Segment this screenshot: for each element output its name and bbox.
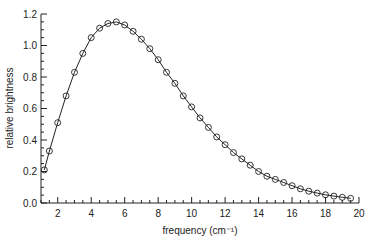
brightness-frequency-chart: 0.00.20.40.60.81.01.2 2468101214161820 f… [0,0,371,241]
x-tick-label: 8 [155,208,161,219]
x-tick-label: 20 [353,208,365,219]
x-tick-label: 12 [220,208,232,219]
x-axis-title: frequency (cm⁻¹) [162,225,237,236]
y-tick-label: 0.8 [23,72,37,83]
y-tick-label: 1.2 [23,9,37,20]
data-markers [41,19,353,201]
y-axis: 0.00.20.40.60.81.01.2 [23,9,47,209]
x-tick-label: 10 [186,208,198,219]
x-tick-label: 18 [320,208,332,219]
x-tick-label: 16 [286,208,298,219]
y-tick-label: 0.2 [23,166,37,177]
fitted-curve [44,22,350,198]
y-axis-title: relative brightness [4,67,15,148]
y-tick-label: 0.4 [23,135,37,146]
y-tick-label: 1.0 [23,40,37,51]
y-tick-label: 0.0 [23,198,37,209]
y-tick-label: 0.6 [23,103,37,114]
x-tick-label: 14 [253,208,265,219]
x-tick-label: 4 [88,208,94,219]
x-tick-label: 2 [55,208,61,219]
x-tick-label: 6 [122,208,128,219]
x-axis: 2468101214161820 [41,197,365,219]
